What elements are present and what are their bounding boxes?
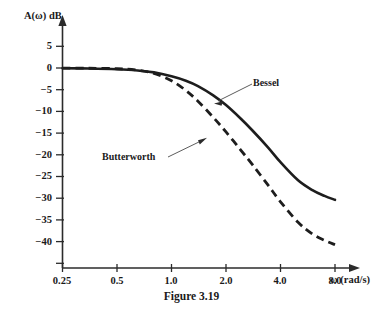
figure-caption: Figure 3.19 [0, 291, 383, 303]
y-axis-title: A(ω) dB [24, 11, 62, 22]
annotation-label-butterworth: Butterworth [102, 152, 155, 162]
y-tick-label-5: 5 [18, 41, 52, 52]
y-tick-label-minus-40: −40 [18, 237, 52, 248]
y-tick-label-minus-5: −5 [18, 85, 52, 96]
y-tick-label-minus-15: −15 [18, 128, 52, 139]
chart-plot-area [0, 0, 383, 310]
y-tick-label-minus-20: −20 [18, 150, 52, 161]
x-tick-label-4-0: 4.0 [260, 276, 300, 287]
x-tick-label-0-5: 0.5 [97, 276, 137, 287]
curve-bessel [63, 68, 336, 200]
y-tick-label-0: 0 [18, 63, 52, 74]
x-tick-label-8-0: 8.0 [315, 276, 355, 287]
annotation-leader-bessel [214, 84, 252, 106]
x-tick-label-0-25: 0.25 [42, 276, 82, 287]
annotation-label-bessel: Bessel [253, 78, 279, 88]
figure-container: A(ω) dB ω (rad/s) 5 0 −5 −10 −15 −20 −25… [0, 0, 383, 310]
y-tick-label-minus-10: −10 [18, 106, 52, 117]
annotation-leader-butterworth [168, 138, 207, 157]
x-tick-label-1-0: 1.0 [151, 276, 191, 287]
x-tick-label-2-0: 2.0 [206, 276, 246, 287]
x-axis [63, 264, 361, 272]
y-tick-label-minus-25: −25 [18, 171, 52, 182]
y-axis [58, 15, 66, 268]
y-tick-label-minus-35: −35 [18, 215, 52, 226]
y-tick-label-minus-30: −30 [18, 193, 52, 204]
